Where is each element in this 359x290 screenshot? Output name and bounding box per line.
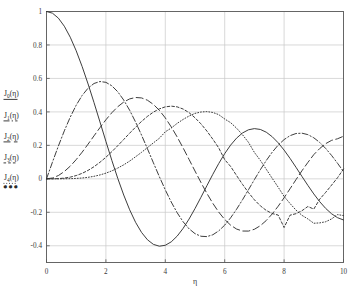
chart-background [0, 0, 359, 290]
y-tick-label: 0.6 [33, 75, 42, 83]
y-tick-label: 0.2 [33, 142, 42, 150]
x-axis-title: η [193, 277, 197, 286]
plot-svg: 10.80.60.40.20-0.2-0.4 0246810 J0(η)J1(η… [0, 0, 359, 290]
x-tick-label: 0 [45, 268, 49, 276]
x-tick-label: 8 [282, 268, 286, 276]
legend-label-1: J1(η) [4, 111, 19, 121]
x-tick-label: 10 [340, 268, 348, 276]
x-tick-label: 6 [223, 268, 227, 276]
legend-label-3: J3(η) [4, 153, 19, 163]
y-tick-label: 0 [38, 175, 42, 183]
y-tick-label: 1 [38, 8, 42, 16]
y-tick-label: 0.4 [33, 109, 42, 117]
y-tick-label: -0.4 [31, 242, 43, 250]
x-tick-label: 2 [104, 268, 108, 276]
legend-ellipsis: ●●● [3, 182, 19, 191]
y-tick-label: 0.8 [33, 42, 42, 50]
legend-label-2: J2(η) [4, 132, 19, 142]
y-tick-label: -0.2 [31, 209, 43, 217]
x-tick-label: 4 [164, 268, 168, 276]
legend-label-0: J0(η) [4, 89, 19, 99]
bessel-function-chart: 10.80.60.40.20-0.2-0.4 0246810 J0(η)J1(η… [0, 0, 359, 290]
